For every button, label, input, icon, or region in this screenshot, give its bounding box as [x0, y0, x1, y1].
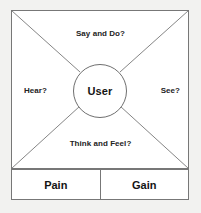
user-label: User — [88, 85, 113, 97]
outcome-label-gain: Gain — [132, 179, 156, 191]
quadrant-label-say-and-do: Say and Do? — [0, 29, 201, 38]
empathy-map-diagram: User Say and Do? Hear? See? Think and Fe… — [0, 0, 201, 213]
outcome-cell-gain: Gain — [100, 170, 189, 199]
outcome-cell-pain: Pain — [12, 170, 100, 199]
outcome-label-pain: Pain — [44, 179, 67, 191]
quadrant-label-think-and-feel: Think and Feel? — [0, 139, 201, 148]
quadrant-label-see: See? — [161, 86, 180, 95]
user-circle: User — [73, 64, 127, 118]
outcome-bar: Pain Gain — [11, 169, 189, 200]
quadrant-label-hear: Hear? — [24, 86, 47, 95]
